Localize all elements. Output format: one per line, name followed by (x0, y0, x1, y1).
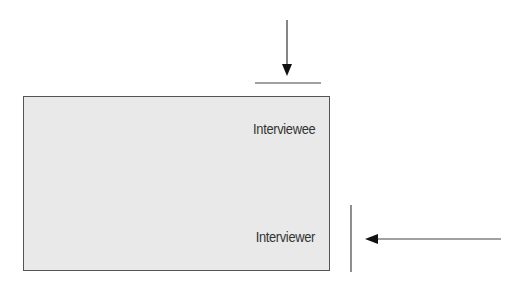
arrow-down-icon (282, 20, 292, 76)
diagram-canvas: Interviewee Interviewer (0, 0, 528, 288)
diagram-lines (0, 0, 528, 288)
arrow-left-icon (365, 234, 501, 244)
